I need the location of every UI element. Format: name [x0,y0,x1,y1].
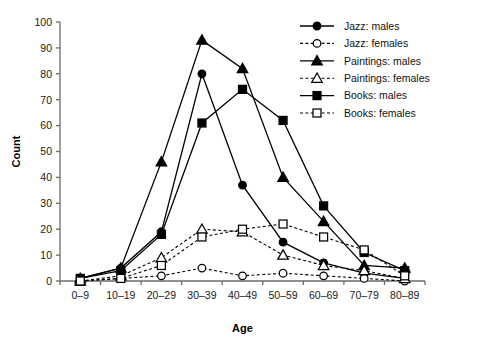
chart-canvas: 01020304050607080901000–910–1920–2930–39… [0,0,485,340]
x-tick-label: 30–39 [187,289,216,301]
data-point-marker [76,277,84,285]
data-point-marker [320,233,328,241]
data-point-marker [239,225,247,233]
data-point-marker [239,181,247,189]
legend-label: Books: males [344,89,407,101]
data-point-marker [198,70,206,78]
legend-item-1[interactable]: Jazz: females [300,37,408,49]
x-tick-label: 80–89 [390,289,419,301]
legend-label: Jazz: males [344,20,399,32]
legend-item-4[interactable]: Books: males [300,89,407,101]
data-point-marker [360,275,368,283]
legend-label: Paintings: males [344,55,421,67]
legend-item-5[interactable]: Books: females [300,107,416,119]
y-tick-label: 100 [34,16,52,28]
data-point-marker [278,250,289,259]
data-point-marker [313,109,321,117]
data-point-marker [320,202,328,210]
y-tick-label: 70 [40,94,52,106]
data-point-marker [313,92,321,100]
x-tick-label: 70–79 [350,289,379,301]
data-point-marker [360,246,368,254]
data-point-marker [279,220,287,228]
data-point-marker [239,85,247,93]
legend: Jazz: malesJazz: femalesPaintings: males… [300,20,430,119]
y-tick-label: 50 [40,145,52,157]
data-point-marker [156,157,167,166]
data-point-marker [237,63,248,72]
chart-figure: 01020304050607080901000–910–1920–2930–39… [0,0,485,340]
data-point-marker [117,274,125,282]
data-point-marker [320,272,328,280]
data-point-marker [197,35,208,44]
x-tick-label: 20–29 [147,289,176,301]
data-point-marker [117,267,125,275]
data-point-marker [157,230,165,238]
x-axis-ticks: 0–910–1920–2930–3940–4950–5960–6970–7980… [60,281,425,301]
legend-label: Jazz: females [344,37,408,49]
y-tick-label: 10 [40,249,52,261]
series-0 [76,70,408,282]
legend-label: Paintings: females [344,72,430,84]
legend-item-3[interactable]: Paintings: females [300,72,430,84]
x-tick-label: 60–69 [309,289,338,301]
data-point-marker [156,252,167,261]
x-tick-label: 10–19 [106,289,135,301]
data-point-marker [312,73,323,82]
data-point-marker [313,22,321,30]
y-tick-label: 30 [40,197,52,209]
y-axis-ticks: 0102030405060708090100 [34,16,60,287]
data-point-marker [279,238,287,246]
data-point-marker [198,264,206,272]
data-point-marker [157,261,165,269]
data-point-marker [198,119,206,127]
data-point-marker [401,272,409,280]
legend-label: Books: females [344,107,416,119]
x-tick-label: 50–59 [268,289,297,301]
data-point-marker [279,116,287,124]
legend-item-0[interactable]: Jazz: males [300,20,399,32]
x-axis-title: Age [232,322,253,334]
data-point-marker [198,233,206,241]
y-tick-label: 90 [40,42,52,54]
x-tick-label: 40–49 [228,289,257,301]
legend-item-2[interactable]: Paintings: males [300,55,421,67]
y-tick-label: 60 [40,119,52,131]
data-point-marker [239,272,247,280]
data-point-marker [313,40,321,48]
y-tick-label: 80 [40,68,52,80]
data-point-marker [279,269,287,277]
y-tick-label: 20 [40,223,52,235]
data-point-marker [197,224,208,233]
y-tick-label: 40 [40,171,52,183]
data-point-marker [158,272,166,280]
y-tick-label: 0 [46,275,52,287]
y-axis-title: Count [10,135,22,167]
data-point-marker [278,172,289,181]
x-tick-label: 0–9 [72,289,90,301]
